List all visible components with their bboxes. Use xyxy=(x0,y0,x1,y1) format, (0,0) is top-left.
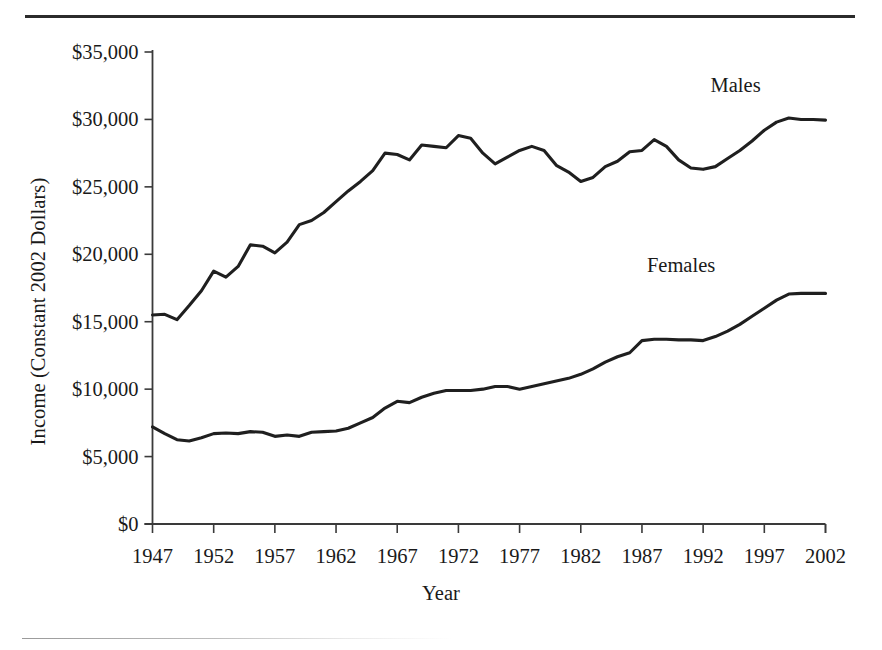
y-axis-tick-label: $10,000 xyxy=(72,379,139,400)
y-axis-title: Income (Constant 2002 Dollars) xyxy=(27,152,50,472)
x-axis-title: Year xyxy=(0,582,882,605)
y-axis-tick-label: $20,000 xyxy=(72,244,139,265)
y-axis-tick-label: $25,000 xyxy=(72,177,139,198)
chart-plot-area: $0$5,000$10,000$15,000$20,000$25,000$30,… xyxy=(0,0,882,650)
axis-group xyxy=(145,50,826,533)
series-line-females xyxy=(153,293,826,441)
y-axis-tick-label: $30,000 xyxy=(72,109,139,130)
y-axis-tick-label: $35,000 xyxy=(72,42,139,63)
x-axis-tick-label: 2002 xyxy=(786,546,866,567)
figure-container: $0$5,000$10,000$15,000$20,000$25,000$30,… xyxy=(0,0,882,650)
y-axis-tick-label: $5,000 xyxy=(82,447,138,468)
y-axis-tick-label: $15,000 xyxy=(72,312,139,333)
y-axis-tick-label: $0 xyxy=(118,514,139,535)
series-label-males: Males xyxy=(711,75,761,96)
series-label-females: Females xyxy=(647,255,715,276)
series-group xyxy=(153,118,826,441)
series-line-males xyxy=(153,118,826,320)
